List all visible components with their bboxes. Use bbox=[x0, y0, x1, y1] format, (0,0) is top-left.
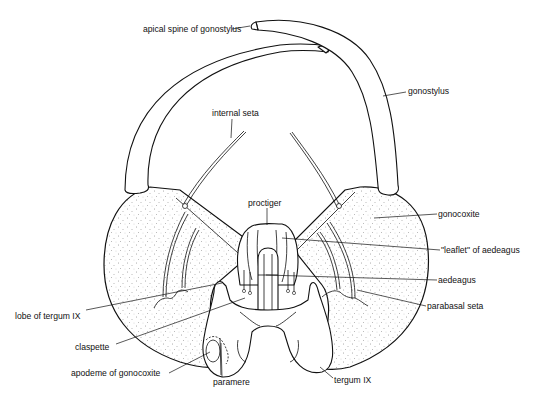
label-text: claspette bbox=[75, 342, 110, 352]
label-proctiger: proctiger bbox=[248, 198, 282, 225]
label-internal-seta: internal seta bbox=[212, 108, 259, 138]
label-text: parabasal seta bbox=[427, 301, 484, 311]
label-text: gonostylus bbox=[408, 86, 449, 96]
label-text: internal seta bbox=[212, 108, 259, 118]
label-text: gonocoxite bbox=[438, 209, 480, 219]
label-text: tergum IX bbox=[334, 375, 372, 385]
label-gonostylus: gonostylus bbox=[383, 86, 449, 96]
label-text: "leaflet" of aedeagus bbox=[441, 245, 520, 255]
label-text: paramere bbox=[213, 377, 250, 387]
label-text: apodeme of gonocoxite bbox=[71, 368, 161, 378]
genitalia-diagram: apical spine of gonostylusgonostylusinte… bbox=[0, 0, 538, 398]
label-apical-spine-of-gonostylus: apical spine of gonostylus bbox=[143, 24, 250, 34]
labels-layer: apical spine of gonostylusgonostylusinte… bbox=[15, 24, 520, 387]
label-text: apical spine of gonostylus bbox=[143, 24, 241, 34]
aedeagus bbox=[258, 248, 278, 320]
leader-line bbox=[231, 119, 232, 138]
label-text: lobe of tergum IX bbox=[15, 311, 81, 321]
left-gonostylus bbox=[125, 44, 330, 194]
label-text: proctiger bbox=[248, 198, 282, 208]
label-text: aedeagus bbox=[438, 275, 476, 285]
internal-setae bbox=[183, 131, 342, 209]
leader-line bbox=[383, 92, 406, 96]
